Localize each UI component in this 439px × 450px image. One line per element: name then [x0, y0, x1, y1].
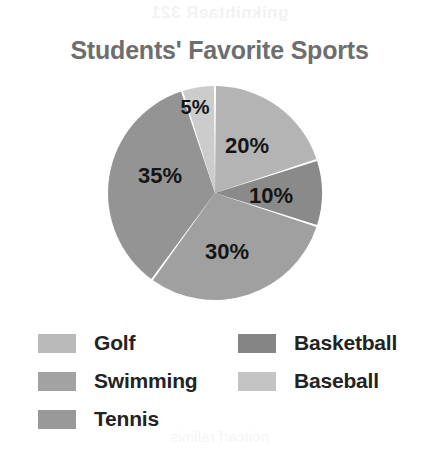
page-title: Students' Favorite Sports [0, 36, 439, 65]
legend-label-tennis: Tennis [94, 407, 159, 431]
legend-item-basketball[interactable]: Basketball [238, 324, 397, 362]
scan-bleedthrough-top: gniknihtaeR 321 [0, 0, 439, 26]
legend-label-basketball: Basketball [294, 331, 397, 355]
legend-label-swimming: Swimming [94, 369, 197, 393]
legend-item-swimming[interactable]: Swimming [38, 362, 197, 400]
legend-swatch-baseball [238, 372, 276, 391]
legend-label-golf: Golf [94, 331, 135, 355]
pie-slice-label-swimming: 30% [205, 239, 249, 264]
legend-item-golf[interactable]: Golf [38, 324, 197, 362]
pie-slice-label-golf: 20% [225, 133, 269, 158]
legend-item-baseball[interactable]: Baseball [238, 362, 397, 400]
legend-column-right: BasketballBaseball [238, 324, 397, 400]
legend-column-left: GolfSwimmingTennis [38, 324, 197, 438]
pie-slice-label-basketball: 10% [249, 183, 293, 208]
pie-slice-label-tennis: 35% [138, 163, 182, 188]
legend-swatch-golf [38, 334, 76, 353]
pie-chart-svg: 20%10%30%35%5% [107, 85, 323, 301]
pie-chart: 20%10%30%35%5% [107, 85, 323, 301]
legend-swatch-swimming [38, 372, 76, 391]
legend-swatch-tennis [38, 410, 76, 429]
legend-swatch-basketball [238, 334, 276, 353]
legend-label-baseball: Baseball [294, 369, 379, 393]
chart-legend: GolfSwimmingTennis BasketballBaseball [38, 324, 408, 442]
pie-slice-label-baseball: 5% [181, 96, 210, 118]
legend-item-tennis[interactable]: Tennis [38, 400, 197, 438]
